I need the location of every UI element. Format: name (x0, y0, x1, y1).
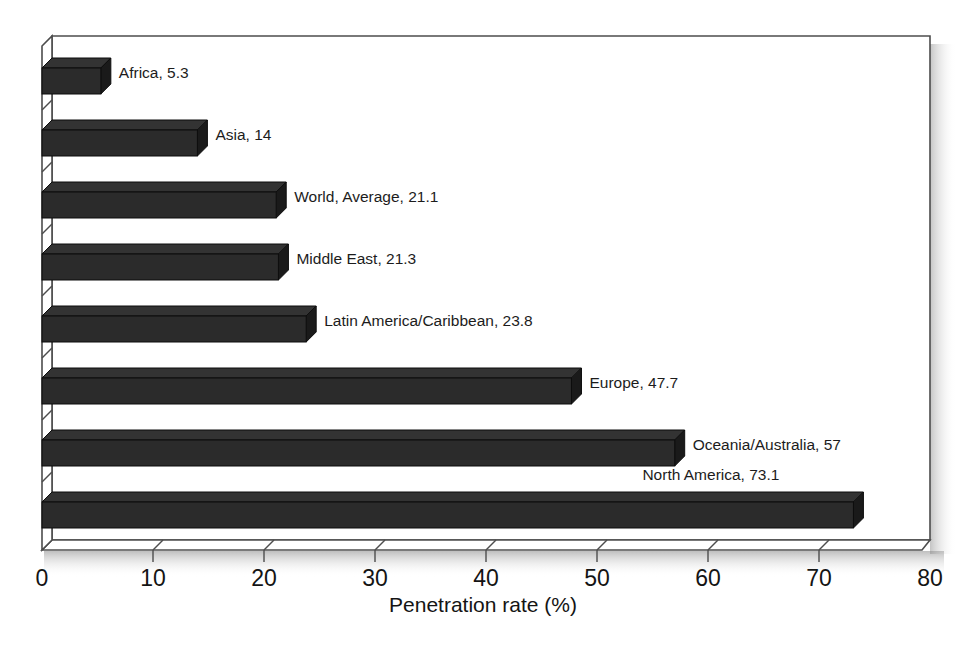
chart-canvas: Africa, 5.3Asia, 14World, Average, 21.1M… (0, 0, 972, 650)
bar-group (42, 368, 581, 404)
bar-group (42, 492, 863, 528)
bar-top-face (42, 58, 111, 68)
bar-value-label: World, Average, 21.1 (294, 188, 438, 205)
bar-value-label: Asia, 14 (215, 126, 271, 143)
bar-group (42, 120, 207, 156)
bar-top-face (42, 492, 863, 502)
bar-group (42, 58, 111, 94)
bar-value-label: Africa, 5.3 (119, 64, 189, 81)
x-axis-tick-label: 70 (806, 565, 832, 591)
right-shadow (930, 44, 956, 554)
x-axis-tick-label: 30 (362, 565, 388, 591)
x-axis-tick-label: 50 (584, 565, 610, 591)
bar-front-face (42, 192, 276, 218)
bar-top-face (42, 306, 316, 316)
bar-top-face (42, 244, 288, 254)
bar-front-face (42, 502, 853, 528)
bar-value-label: Oceania/Australia, 57 (693, 436, 841, 453)
bar-front-face (42, 440, 675, 466)
bar-top-face (42, 368, 581, 378)
bar-group (42, 182, 286, 218)
bar-front-face (42, 130, 197, 156)
bar-group (42, 306, 316, 342)
bar-front-face (42, 254, 278, 280)
bar-value-label: Europe, 47.7 (589, 374, 678, 391)
bar-value-label: North America, 73.1 (642, 466, 779, 483)
bar-top-face (42, 182, 286, 192)
x-axis-tick-label: 10 (140, 565, 166, 591)
x-axis-tick-label: 20 (251, 565, 277, 591)
floor-panel (42, 540, 930, 550)
x-axis-tick-label: 60 (695, 565, 721, 591)
bar-top-face (42, 120, 207, 130)
bar-group (42, 430, 685, 466)
bar-value-label: Latin America/Caribbean, 23.8 (324, 312, 533, 329)
bar-group (42, 244, 288, 280)
bar-front-face (42, 378, 571, 404)
x-axis-tick-label: 40 (473, 565, 499, 591)
bar-front-face (42, 68, 101, 94)
x-axis-tick-label: 0 (36, 565, 49, 591)
plot-frame (42, 36, 930, 550)
bar-chart: Africa, 5.3Asia, 14World, Average, 21.1M… (0, 0, 972, 650)
bar-value-label: Middle East, 21.3 (296, 250, 416, 267)
bar-front-face (42, 316, 306, 342)
x-axis-tick-label: 80 (917, 565, 943, 591)
x-axis-title: Penetration rate (%) (389, 593, 577, 616)
bar-top-face (42, 430, 685, 440)
